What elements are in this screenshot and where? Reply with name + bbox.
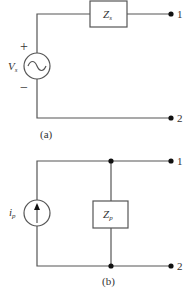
terminal-1-label: 1 (177, 155, 183, 167)
figure-b: Zp ip 1 2 (b) (9, 155, 183, 288)
wire-b-bottom (37, 226, 171, 266)
terminal-2-node (168, 263, 173, 268)
plus-sign: + (20, 39, 28, 54)
terminal-1-node (168, 158, 173, 163)
terminal-2-label: 2 (177, 260, 183, 272)
terminal-1-label: 1 (177, 8, 183, 20)
figure-a: Zs Vs + − 1 2 (a) (8, 1, 183, 141)
terminal-2-node (168, 115, 173, 120)
voltage-source-label: Vs (8, 60, 18, 74)
caption-b: (b) (102, 275, 115, 288)
circuit-diagram: Zs Vs + − 1 2 (a) Zp (0, 0, 192, 298)
junction-top-node (108, 158, 113, 163)
minus-sign: − (20, 80, 28, 95)
terminal-2-label: 2 (177, 112, 183, 124)
junction-bottom-node (108, 263, 113, 268)
terminal-1-node (168, 11, 173, 16)
caption-a: (a) (40, 128, 53, 141)
wire-b-top (37, 161, 171, 200)
wire-a-bottom (37, 79, 171, 118)
current-source-label: ip (9, 206, 16, 220)
wire-a-top-left (37, 14, 90, 53)
